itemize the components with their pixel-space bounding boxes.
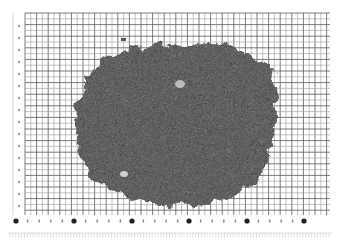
light-spot [120,171,128,177]
material-pile [75,38,277,205]
small-fragment [121,38,126,41]
light-spot [175,80,185,88]
material-on-graph-paper-photo [0,0,338,245]
